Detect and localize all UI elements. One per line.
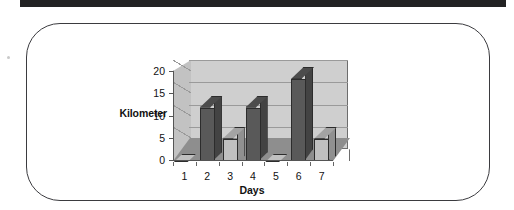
x-axis-tick-label: 5	[269, 170, 283, 182]
bar-front-face	[314, 139, 329, 161]
bar	[177, 60, 192, 161]
bar	[200, 60, 215, 161]
bar-chart: Kilometer 05101520 1234567 Days	[135, 58, 380, 210]
bar	[291, 60, 306, 161]
x-axis-tick-label: 2	[200, 170, 214, 182]
x-axis-tick-mark	[287, 162, 288, 166]
top-black-band	[20, 0, 506, 7]
bar-front-face	[246, 108, 261, 161]
x-axis-tick-label: 4	[246, 170, 260, 182]
x-axis-tick-label: 3	[223, 170, 237, 182]
bar	[314, 60, 329, 161]
y-axis-line	[173, 71, 174, 161]
bar-side-face	[214, 96, 222, 160]
page-speck-artifact	[7, 56, 10, 59]
x-axis-line	[173, 160, 333, 161]
bar-side-face	[260, 96, 268, 160]
x-axis-tick-labels: 1234567	[171, 166, 371, 182]
x-axis-tick-label: 7	[315, 170, 329, 182]
bar-side-face	[305, 67, 313, 160]
y-axis-tick-mark	[169, 116, 173, 117]
x-axis-tick-mark	[173, 162, 174, 166]
y-axis-tick-label: 0	[143, 154, 165, 166]
y-axis-tick-labels: 05101520	[143, 58, 165, 161]
y-axis-tick-label: 10	[143, 110, 165, 122]
x-axis-tick-mark	[219, 162, 220, 166]
x-axis-tick-label: 1	[177, 170, 191, 182]
figure-outline-box: Kilometer 05101520 1234567 Days	[26, 23, 490, 201]
bar-front-face	[223, 139, 238, 161]
bar-front-face	[291, 79, 306, 161]
x-axis-tick-mark	[196, 162, 197, 166]
y-axis-tick-label: 15	[143, 87, 165, 99]
y-axis-tick-mark	[169, 138, 173, 139]
y-axis-tick-label: 5	[143, 132, 165, 144]
x-axis-tick-label: 6	[292, 170, 306, 182]
x-axis-tick-mark	[333, 162, 334, 166]
bar	[246, 60, 261, 161]
bar	[223, 60, 238, 161]
y-axis-tick-mark	[169, 71, 173, 72]
y-axis-tick-label: 20	[143, 65, 165, 77]
bar	[268, 60, 283, 161]
plot-area	[171, 60, 366, 178]
y-axis-tick-mark	[169, 93, 173, 94]
x-axis-tick-mark	[310, 162, 311, 166]
x-axis-tick-mark	[242, 162, 243, 166]
x-axis-title: Days	[171, 184, 333, 196]
x-axis-tick-mark	[264, 162, 265, 166]
bar-front-face	[200, 108, 215, 161]
